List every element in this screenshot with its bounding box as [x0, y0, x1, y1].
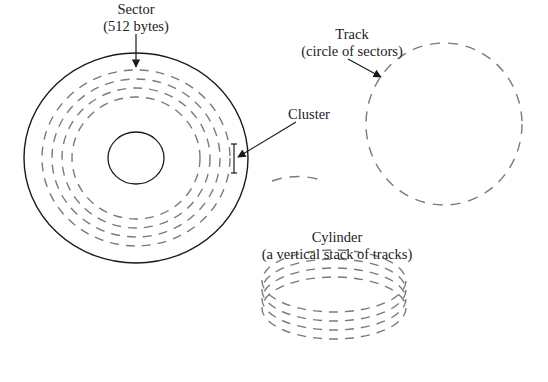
track-label: Track (circle of sectors) — [292, 26, 412, 60]
track-label-detail: (circle of sectors) — [292, 43, 412, 60]
cylinder-label-title: Cylinder — [247, 229, 427, 246]
cylinder-label-detail: (a vertical stack of tracks) — [247, 246, 427, 263]
cylinder-label: Cylinder (a vertical stack of tracks) — [247, 229, 427, 263]
cluster-bracket — [231, 144, 237, 173]
cylinder — [262, 250, 406, 339]
platter-track-2 — [52, 79, 220, 237]
track-arrow — [348, 59, 381, 77]
sector-label-detail: (512 bytes) — [96, 18, 176, 35]
sector-label: Sector (512 bytes) — [96, 1, 176, 35]
track-circle — [366, 43, 522, 205]
sector-fragment-arc — [272, 177, 324, 182]
platter-track-4 — [72, 97, 200, 219]
platter-tracks — [42, 70, 230, 246]
platter-track-3 — [62, 88, 210, 228]
disk-platter — [24, 53, 248, 263]
cluster-label-title: Cluster — [274, 106, 344, 123]
cluster-label: Cluster — [274, 106, 344, 123]
platter-hub — [108, 132, 164, 184]
platter-outer-edge — [24, 53, 248, 263]
disk-diagram — [0, 0, 548, 382]
track-label-title: Track — [292, 26, 412, 43]
sector-label-title: Sector — [96, 1, 176, 18]
